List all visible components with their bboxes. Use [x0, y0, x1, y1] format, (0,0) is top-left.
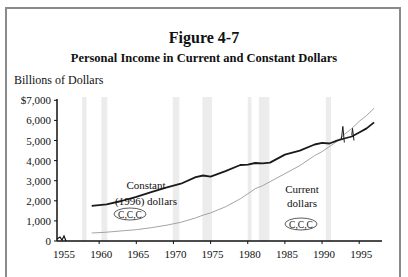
x-tick-label: 1975 [202, 248, 225, 260]
y-tick-label: $7,000 [21, 94, 52, 106]
x-tick-label: 1960 [90, 248, 113, 260]
current-label-line2: dollars [287, 197, 317, 209]
recession-band [326, 97, 331, 241]
recession-band [173, 97, 180, 241]
current-label-line1: Current [285, 183, 319, 195]
x-tick-label: 1955 [53, 248, 76, 260]
x-tick-label: 1980 [239, 248, 262, 260]
constant-label-line1: Constant [126, 179, 165, 191]
y-tick-label: 6,000 [26, 114, 51, 126]
constant-label-line2: (1996) dollars [115, 195, 177, 208]
data-spikes [341, 126, 354, 142]
recession-band [248, 97, 252, 241]
recession-band [259, 97, 269, 241]
y-tick-label: 0 [46, 235, 52, 247]
ccc-right-text: C,C,C [289, 220, 313, 230]
recession-band [202, 97, 212, 241]
recession-band [82, 97, 86, 241]
x-tick-label: 1995 [350, 248, 373, 260]
x-tick-label: 1985 [276, 248, 299, 260]
y-tick-label: 2,000 [26, 195, 51, 207]
annotations: Constant (1996) dollars C,C,C Current do… [114, 179, 319, 230]
constant-dollars-line [92, 122, 374, 205]
y-tick-label: 1,000 [26, 215, 51, 227]
ccc-left-text: C,C,C [118, 210, 142, 220]
y-tick-label: 3,000 [26, 175, 51, 187]
x-tick-label: 1965 [127, 248, 150, 260]
y-tick-label: 4,000 [26, 155, 51, 167]
x-tick-label: 1990 [313, 248, 336, 260]
recession-band [101, 97, 107, 241]
x-tick-label: 1970 [164, 248, 187, 260]
y-tick-label: 5,000 [26, 135, 51, 147]
